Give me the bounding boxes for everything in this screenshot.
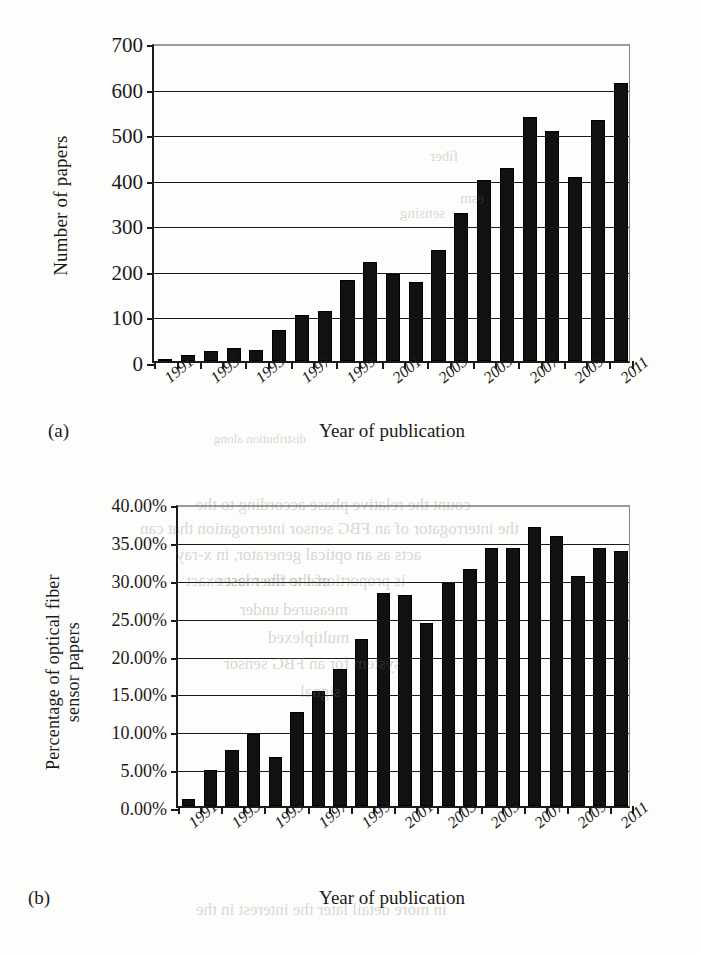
y-axis-tick — [147, 273, 154, 275]
x-axis-tick — [586, 361, 588, 369]
x-axis-tick — [382, 361, 384, 369]
y-axis-tick-label: 500 — [112, 124, 144, 149]
x-axis-tick — [609, 361, 611, 369]
y-axis-tick-label: 600 — [112, 78, 144, 103]
x-axis-tick — [329, 806, 331, 814]
x-axis-tick — [313, 361, 315, 369]
y-axis-tick — [171, 733, 178, 735]
x-axis-tick — [437, 806, 439, 814]
chart-a-plot-area: 0100200300400500600700199119931995199719… — [152, 44, 630, 363]
bar — [593, 548, 606, 806]
chart-b-x-axis-title: Year of publication — [272, 887, 512, 909]
bar — [247, 734, 260, 806]
x-axis-tick — [245, 361, 247, 369]
y-axis-tick — [171, 506, 178, 508]
bar — [614, 83, 628, 361]
x-axis-tick — [567, 806, 569, 814]
x-axis-tick — [394, 806, 396, 814]
x-axis-tick — [473, 361, 475, 369]
y-axis-tick-label: 30.00% — [112, 571, 168, 592]
x-axis-tick — [200, 361, 202, 369]
bar — [204, 351, 218, 361]
bar — [409, 282, 423, 361]
bar — [506, 548, 519, 806]
bar — [158, 359, 172, 361]
y-axis-tick — [171, 771, 178, 773]
x-axis-tick — [481, 806, 483, 814]
figure-panel-b: Percentage of optical fiber sensor paper… — [0, 462, 701, 954]
chart-b-y-axis-title: Percentage of optical fiber sensor paper… — [43, 557, 83, 787]
y-axis-tick-label: 100 — [112, 306, 144, 331]
x-axis-tick — [178, 806, 180, 814]
x-axis-tick — [336, 361, 338, 369]
bar — [182, 799, 195, 806]
bar — [545, 131, 559, 361]
chart-b-y-axis-title-line-2: sensor papers — [63, 557, 83, 787]
y-axis-tick-label: 20.00% — [112, 647, 168, 668]
chart-b-y-axis-title-line-1: Percentage of optical fiber — [43, 557, 63, 787]
x-axis-tick — [546, 806, 548, 814]
bar — [290, 712, 303, 806]
bar — [568, 177, 582, 361]
y-axis-tick — [171, 620, 178, 622]
bar — [249, 350, 263, 361]
y-axis-tick-label: 200 — [112, 260, 144, 285]
chart-b-plot-area: 0.00%5.00%10.00%15.00%20.00%25.00%30.00%… — [176, 505, 630, 808]
bar — [225, 750, 238, 806]
bar — [398, 595, 411, 806]
x-axis-tick — [308, 806, 310, 814]
x-axis-tick — [589, 806, 591, 814]
y-axis-tick — [171, 544, 178, 546]
y-axis-tick-label: 40.00% — [112, 496, 168, 517]
bar — [295, 315, 309, 361]
x-axis-tick — [416, 806, 418, 814]
bar — [528, 527, 541, 806]
bar — [340, 280, 354, 361]
bar — [614, 551, 627, 806]
y-axis-tick-label: 25.00% — [112, 609, 168, 630]
y-axis-tick — [147, 364, 154, 366]
y-axis-tick — [147, 227, 154, 229]
x-axis-tick — [541, 361, 543, 369]
bar — [355, 639, 368, 806]
y-axis-tick — [147, 182, 154, 184]
bar — [431, 250, 445, 361]
x-axis-tick — [524, 806, 526, 814]
y-axis-tick — [147, 136, 154, 138]
x-axis-tick — [495, 361, 497, 369]
x-axis-tick — [610, 806, 612, 814]
x-axis-tick — [359, 361, 361, 369]
bar — [386, 274, 400, 361]
bar — [312, 691, 325, 806]
x-axis-tick — [222, 361, 224, 369]
y-axis-tick-label: 400 — [112, 169, 144, 194]
chart-a-panel-letter: (a) — [48, 420, 69, 442]
bar-series — [154, 45, 629, 361]
y-axis-tick-label: 0 — [133, 352, 144, 377]
y-axis-tick — [147, 318, 154, 320]
x-axis-tick — [268, 361, 270, 369]
x-axis-tick — [632, 806, 634, 814]
y-axis-tick — [147, 91, 154, 93]
y-axis-tick-label: 35.00% — [112, 533, 168, 554]
bar — [442, 583, 455, 806]
x-axis-tick — [154, 361, 156, 369]
x-axis-tick — [200, 806, 202, 814]
x-axis-tick — [243, 806, 245, 814]
x-axis-tick — [264, 806, 266, 814]
y-axis-tick-label: 5.00% — [121, 761, 168, 782]
y-axis-tick-label: 300 — [112, 215, 144, 240]
chart-a-x-axis-title: Year of publication — [272, 420, 512, 442]
y-axis-tick-label: 15.00% — [112, 685, 168, 706]
y-axis-tick — [147, 45, 154, 47]
chart-a-y-axis-title: Number of papers — [50, 106, 71, 306]
x-axis-tick — [286, 806, 288, 814]
bar — [333, 669, 346, 806]
x-axis-tick — [518, 361, 520, 369]
x-axis-tick — [373, 806, 375, 814]
y-axis-tick — [171, 695, 178, 697]
y-axis-tick-label: 700 — [112, 33, 144, 58]
y-axis-tick-label: 10.00% — [112, 723, 168, 744]
x-axis-tick — [177, 361, 179, 369]
bar — [571, 576, 584, 806]
